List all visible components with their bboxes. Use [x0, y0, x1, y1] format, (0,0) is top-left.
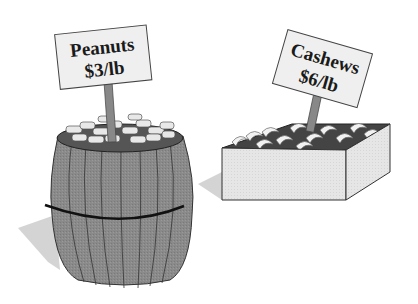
illustration-canvas: Peanuts $3/lb Cashews — [0, 0, 418, 304]
peanut-price-sign: Peanuts $3/lb — [55, 25, 152, 89]
box-shadow — [198, 172, 222, 200]
peanut-barrel — [45, 114, 193, 288]
peanut-price: $3/lb — [83, 57, 125, 82]
nut-price-illustration: Peanuts $3/lb Cashews — [0, 0, 418, 304]
cashew-box — [222, 124, 390, 201]
cashew-price-sign: Cashews $6/lb — [272, 30, 372, 108]
